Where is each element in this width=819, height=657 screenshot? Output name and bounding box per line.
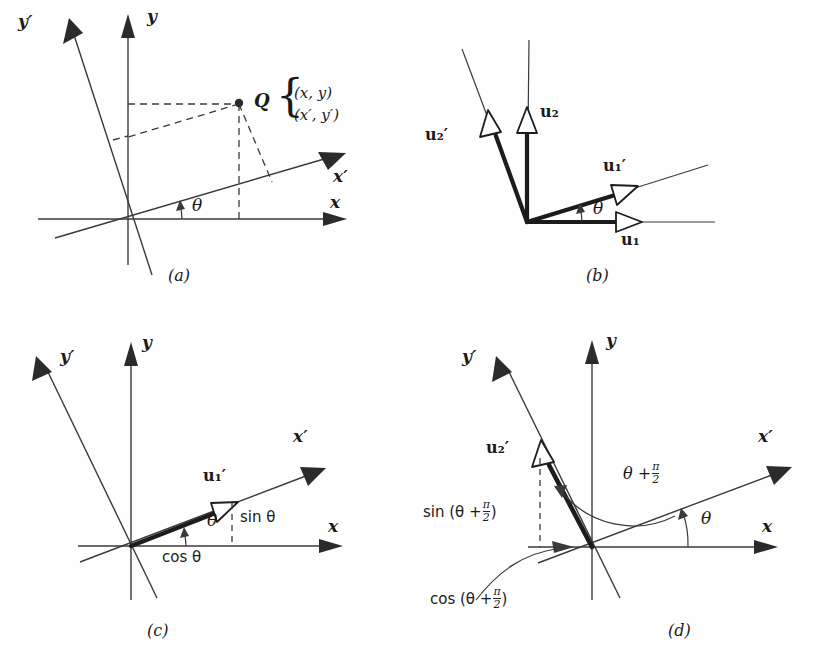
axis-label-x-prime: x′ (333, 168, 348, 185)
axis-y-prime-line (48, 372, 157, 598)
axis-x-arrowhead (323, 212, 347, 226)
axis-x-arrowhead (754, 540, 778, 554)
vector-u2-prime-shaft (549, 465, 592, 547)
vector-u1-prime-arrowhead (611, 185, 638, 205)
axis-x-prime-line (538, 473, 777, 563)
fraction-pi-over-2: π2 (652, 461, 659, 485)
axis-y-prime-line (509, 372, 620, 598)
coords-unprimed: (x, y) (294, 86, 332, 101)
panel-caption-b: (b) (586, 266, 609, 285)
angle-label-theta-plus-halfpi: θ +π2 (623, 462, 660, 486)
panel-b: u₁ u₂ u₁′ u₂′ θ (b) (410, 0, 819, 300)
vector-label-u2-prime: u₂′ (486, 440, 509, 456)
axis-y-arrowhead (124, 342, 138, 366)
vector-u1-arrowhead (616, 212, 642, 232)
panel-a: y x y′ x′ θ Q { (x, y) (x′, y′) (a) (0, 0, 410, 300)
coords-primed: (x′, y′) (294, 108, 339, 123)
axis-label-x-prime: x′ (758, 428, 773, 445)
axis-y-prime-arrowhead (492, 356, 512, 382)
panel-caption-c: (c) (147, 621, 168, 640)
axis-label-y: y (142, 334, 152, 351)
axis-label-x: x (328, 518, 338, 535)
angle-label-theta: θ (207, 512, 217, 529)
panel-d: y x y′ x′ u₂′ θ θ +π2 sin (θ +π2) cos (θ… (410, 310, 819, 657)
fraction-pi-over-2-cos: π2 (493, 586, 500, 610)
vector-label-u1-prime: u₁′ (603, 158, 626, 174)
component-label-sin: sin θ (240, 510, 275, 525)
figure-rotation-of-axes: y x y′ x′ θ Q { (x, y) (x′, y′) (a) (0, 0, 819, 657)
panel-b-lineart (410, 0, 819, 300)
component-label-sin: sin (θ +π2) (423, 500, 497, 524)
projection-y-prime-dashed-tail (113, 136, 128, 140)
vector-u2-prime-shaft (496, 136, 527, 222)
vector-label-u1: u₁ (621, 232, 640, 248)
axis-label-x: x (762, 518, 772, 535)
vector-label-u2: u₂ (540, 104, 559, 120)
angle-theta-arrowhead (180, 527, 189, 538)
angle-label-theta: θ (593, 200, 603, 217)
angle-theta-arc (683, 513, 688, 547)
axis-y-arrowhead (585, 340, 599, 364)
panel-a-lineart (0, 0, 410, 300)
axis-label-x: x (330, 194, 340, 211)
axis-y-prime-arrowhead (63, 18, 83, 44)
panel-caption-a: (a) (168, 266, 190, 285)
component-label-cos: cos (θ +π2) (430, 587, 507, 611)
vector-u2-prime-arrowhead (480, 110, 501, 137)
projection-x-prime-dashed (239, 104, 272, 182)
panel-caption-d: (d) (668, 621, 691, 640)
vector-label-u1-prime: u₁′ (203, 468, 226, 484)
axis-label-x-prime: x′ (293, 428, 308, 445)
angle-label-theta: θ (701, 510, 711, 527)
axis-label-y: y (147, 8, 157, 25)
axis-y-prime-line (74, 35, 152, 275)
axis-label-y-prime: y′ (60, 348, 74, 365)
vector-u1-prime-shaft (131, 514, 213, 546)
point-q-dot (235, 99, 243, 107)
panel-c: y x y′ x′ u₁′ θ sin θ cos θ (c) (0, 310, 410, 657)
component-label-cos: cos θ (162, 550, 201, 565)
projection-y-prime-dashed (128, 104, 239, 137)
axis-y-arrowhead (121, 14, 135, 38)
axis-x-arrowhead (319, 539, 343, 553)
fraction-pi-over-2-sin: π2 (483, 499, 490, 523)
vector-u2-prime-arrowhead (532, 440, 554, 467)
vector-u2-arrowhead (517, 107, 537, 133)
vector-label-u2-prime: u₂′ (425, 127, 448, 143)
axis-label-y-prime: y′ (462, 348, 476, 365)
axis-y-prime-arrowhead (32, 356, 52, 381)
axis-label-y-prime: y′ (18, 13, 32, 30)
point-label-q: Q (254, 92, 270, 110)
axis-label-y: y (606, 332, 616, 349)
angle-label-theta: θ (192, 197, 202, 214)
